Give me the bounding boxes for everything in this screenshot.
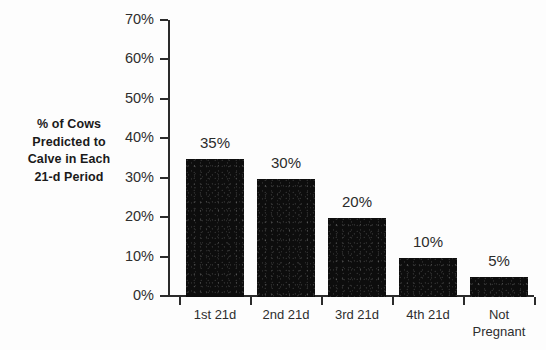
y-axis-tick-label-text: 20% [98, 209, 154, 223]
y-axis-tick [160, 295, 168, 297]
y-axis-tick [160, 216, 168, 218]
y-axis-tick [160, 177, 168, 179]
x-axis-category-label: 2nd 21d [247, 306, 325, 323]
y-axis-tick-label: 0% [98, 288, 154, 302]
bar [328, 218, 386, 297]
y-axis-tick-label-text: 60% [98, 51, 154, 65]
y-axis-tick-label: 30% [98, 170, 154, 184]
y-axis-tick-label-text: 0% [98, 288, 154, 302]
y-axis-tick-label: 60% [98, 51, 154, 65]
x-axis-category-label: NotPregnant [460, 306, 538, 340]
y-axis-tick-label: 40% [98, 130, 154, 144]
x-axis-tick [250, 297, 252, 305]
x-axis-category-label-line: Not [460, 306, 538, 323]
x-axis-category-label-line: 1st 21d [176, 306, 254, 323]
bar-chart: % of Cows Predicted to Calve in Each 21-… [0, 0, 546, 350]
x-axis-category-label-line: Pregnant [460, 323, 538, 340]
x-axis-category-label-line: 4th 21d [389, 306, 467, 323]
bar [257, 179, 315, 297]
y-axis-tick-label: 20% [98, 209, 154, 223]
y-axis-title-line-3: Calve in Each [8, 151, 130, 169]
x-axis-category-label-line: 3rd 21d [318, 306, 396, 323]
x-axis-category-label: 4th 21d [389, 306, 467, 323]
y-axis-tick-label-text: 40% [98, 130, 154, 144]
y-axis-tick-label-text: 30% [98, 170, 154, 184]
x-axis-category-label: 3rd 21d [318, 306, 396, 323]
y-axis-tick-label-text: 10% [98, 249, 154, 263]
y-axis-tick-label-text: 50% [98, 91, 154, 105]
x-axis-category-label-line: 2nd 21d [247, 306, 325, 323]
x-axis-category-label: 1st 21d [176, 306, 254, 323]
y-axis-tick-label-text: 70% [98, 12, 154, 26]
bar-value-label: 30% [251, 155, 321, 170]
y-axis-tick [160, 137, 168, 139]
y-axis-tick-label: 10% [98, 249, 154, 263]
y-axis-tick-label: 70% [98, 12, 154, 26]
x-axis-tick [463, 297, 465, 305]
y-axis-tick [160, 58, 168, 60]
bar [186, 159, 244, 297]
y-axis-tick [160, 19, 168, 21]
bar-value-label: 5% [464, 253, 534, 268]
x-axis-tick [321, 297, 323, 305]
x-axis-tick [392, 297, 394, 305]
x-axis-tick [179, 297, 181, 305]
bar-value-label: 20% [322, 194, 392, 209]
bar-value-label: 35% [180, 135, 250, 150]
bar-value-label: 10% [393, 234, 463, 249]
y-axis-tick [160, 256, 168, 258]
y-axis-tick [160, 98, 168, 100]
bar [470, 277, 528, 297]
bar [399, 258, 457, 297]
y-axis-tick-label: 50% [98, 91, 154, 105]
x-axis-tick [534, 297, 536, 305]
